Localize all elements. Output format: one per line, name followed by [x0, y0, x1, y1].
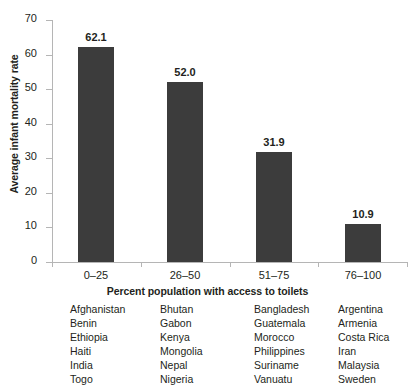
country-name: Suriname: [254, 358, 309, 372]
country-column: AfghanistanBeninEthiopiaHaitiIndiaTogo: [70, 302, 125, 386]
y-axis-tick: 50: [46, 89, 52, 90]
y-axis-tick: 70: [46, 20, 52, 21]
y-axis-tick: 10: [46, 227, 52, 228]
x-axis-title: Percent population with access to toilet…: [0, 285, 415, 297]
country-name: Vanuatu: [254, 372, 309, 386]
x-axis-tick-label: 76–100: [318, 269, 408, 281]
y-axis-tick-label: 40: [25, 116, 37, 128]
country-name: Togo: [70, 372, 125, 386]
x-axis-tick: [52, 262, 53, 267]
bar-value-label: 52.0: [174, 66, 195, 78]
country-name: Haiti: [70, 344, 125, 358]
bar: 52.0: [167, 82, 203, 262]
country-name: Nigeria: [160, 372, 203, 386]
country-name: Sweden: [338, 372, 389, 386]
y-axis-line: [52, 20, 53, 262]
country-name: Argentina: [338, 302, 389, 316]
x-axis-tick: [407, 262, 408, 267]
country-column: BangladeshGuatemalaMoroccoPhilippinesSur…: [254, 302, 309, 386]
bar-value-label: 31.9: [263, 136, 284, 148]
x-axis-tick: [141, 262, 142, 267]
country-name: India: [70, 358, 125, 372]
country-name: Bhutan: [160, 302, 203, 316]
country-name: Afghanistan: [70, 302, 125, 316]
country-name: Philippines: [254, 344, 309, 358]
y-axis-tick-label: 10: [25, 219, 37, 231]
country-name: Iran: [338, 344, 389, 358]
country-name: Bangladesh: [254, 302, 309, 316]
country-list-table: AfghanistanBeninEthiopiaHaitiIndiaTogoBh…: [0, 302, 415, 391]
y-axis-tick-label: 50: [25, 81, 37, 93]
country-name: Gabon: [160, 316, 203, 330]
bar: 31.9: [256, 152, 292, 262]
x-axis-tick-label: 51–75: [229, 269, 319, 281]
y-axis-tick-label: 60: [25, 47, 37, 59]
country-name: Mongolia: [160, 344, 203, 358]
country-name: Benin: [70, 316, 125, 330]
y-axis-tick-label: 20: [25, 185, 37, 197]
country-name: Nepal: [160, 358, 203, 372]
y-axis-tick-label: 0: [31, 254, 37, 266]
country-name: Ethiopia: [70, 330, 125, 344]
country-column: ArgentinaArmeniaCosta RicaIranMalaysiaSw…: [338, 302, 389, 386]
x-axis-tick: [230, 262, 231, 267]
country-column: BhutanGabonKenyaMongoliaNepalNigeria: [160, 302, 203, 386]
y-axis-tick-label: 30: [25, 150, 37, 162]
bar-value-label: 10.9: [352, 208, 373, 220]
country-name: Malaysia: [338, 358, 389, 372]
country-name: Armenia: [338, 316, 389, 330]
x-axis-tick-label: 26–50: [140, 269, 230, 281]
x-axis-tick: [318, 262, 319, 267]
country-name: Morocco: [254, 330, 309, 344]
country-name: Costa Rica: [338, 330, 389, 344]
y-axis-tick: 30: [46, 158, 52, 159]
y-axis-tick: 20: [46, 193, 52, 194]
y-axis-tick: 60: [46, 55, 52, 56]
country-name: Guatemala: [254, 316, 309, 330]
y-axis-tick-label: 70: [25, 12, 37, 24]
bar-chart-figure: Average infant mortality rate 0102030405…: [0, 0, 415, 391]
country-name: Kenya: [160, 330, 203, 344]
x-axis-tick-label: 0–25: [51, 269, 141, 281]
plot-area: 010203040506070 62.152.031.910.9 0–2526–…: [52, 20, 407, 262]
y-axis-title: Average infant mortality rate: [8, 24, 20, 224]
bar-value-label: 62.1: [85, 31, 106, 43]
bar: 62.1: [78, 47, 114, 262]
y-axis-tick: 40: [46, 124, 52, 125]
bar: 10.9: [345, 224, 381, 262]
